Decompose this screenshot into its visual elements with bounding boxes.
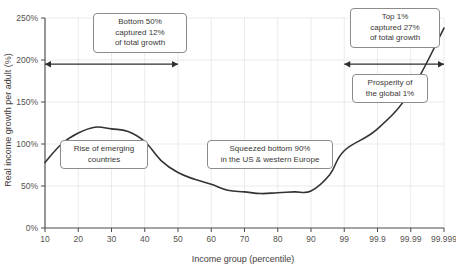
squeezed-bottom-90-callout: Squeezed bottom 90% in the US & western … bbox=[207, 140, 333, 169]
x-tick-label: 30 bbox=[107, 234, 117, 244]
x-tick-label: 50 bbox=[173, 234, 183, 244]
x-tick-label: 60 bbox=[207, 234, 217, 244]
y-tick-label: 100% bbox=[16, 139, 38, 149]
top-1-callout: Top 1% captured 27% of total growth bbox=[350, 8, 440, 48]
x-tick-label: 99 bbox=[340, 234, 350, 244]
x-tick-label: 70 bbox=[240, 234, 250, 244]
global-1-callout: Prosperity of the global 1% bbox=[352, 74, 428, 103]
y-axis-title: Real income growth per adult (%) bbox=[3, 53, 13, 187]
emerging-countries-callout: Rise of emerging countries bbox=[60, 140, 148, 169]
x-tick-label: 99.999 bbox=[431, 234, 456, 244]
x-axis-ticks: 1020304050607080909999.999.9999.999 bbox=[40, 228, 456, 244]
elephant-curve-chart: 0%50%100%150%200%250% 102030405060708090… bbox=[0, 0, 456, 273]
y-tick-label: 250% bbox=[16, 13, 38, 23]
x-tick-label: 99.99 bbox=[400, 234, 422, 244]
x-tick-label: 10 bbox=[40, 234, 50, 244]
x-axis-title: Income group (percentile) bbox=[192, 254, 295, 264]
y-tick-label: 200% bbox=[16, 55, 38, 65]
y-axis-ticks: 0%50%100%150%200%250% bbox=[16, 13, 45, 233]
x-tick-label: 40 bbox=[140, 234, 150, 244]
top-1-span bbox=[344, 61, 444, 67]
bottom-50-callout: Bottom 50% captured 12% of total growth bbox=[93, 13, 187, 53]
y-tick-label: 50% bbox=[21, 181, 38, 191]
x-tick-label: 80 bbox=[273, 234, 283, 244]
x-tick-label: 90 bbox=[306, 234, 316, 244]
y-tick-label: 0% bbox=[26, 223, 39, 233]
x-tick-label: 99.9 bbox=[369, 234, 386, 244]
y-tick-label: 150% bbox=[16, 97, 38, 107]
x-tick-label: 20 bbox=[74, 234, 84, 244]
